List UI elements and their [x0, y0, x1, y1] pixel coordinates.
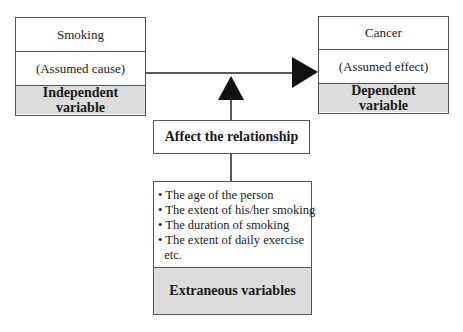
up-arrowhead-icon	[218, 76, 244, 100]
effect-variable: Cancer	[319, 17, 448, 50]
effect-role: (Assumed effect)	[319, 50, 448, 84]
type-line-1: Dependent	[351, 83, 416, 98]
extraneous-variables-label: Extraneous variables	[154, 268, 311, 314]
list-item: etc.	[158, 248, 305, 263]
cause-box: Smoking (Assumed cause) Independent vari…	[15, 17, 146, 116]
dependent-variable-label: Dependent variable	[319, 84, 448, 112]
list-item: • The duration of smoking	[158, 218, 305, 233]
list-item: • The age of the person	[158, 188, 305, 203]
cause-variable: Smoking	[16, 18, 145, 52]
right-arrowhead-icon	[292, 57, 318, 88]
effect-box: Cancer (Assumed effect) Dependent variab…	[318, 16, 449, 114]
extraneous-list: • The age of the person • The extent of …	[154, 182, 311, 268]
type-line-2: variable	[359, 98, 408, 113]
affect-relationship-box: Affect the relationship	[153, 120, 310, 154]
type-line-2: variable	[56, 100, 105, 115]
type-line-1: Independent	[43, 85, 118, 100]
extraneous-box: • The age of the person • The extent of …	[153, 181, 312, 315]
list-item: • The extent of daily exercise	[158, 233, 305, 248]
list-item: • The extent of his/her smoking	[158, 203, 305, 218]
independent-variable-label: Independent variable	[16, 86, 145, 114]
cause-role: (Assumed cause)	[16, 52, 145, 86]
